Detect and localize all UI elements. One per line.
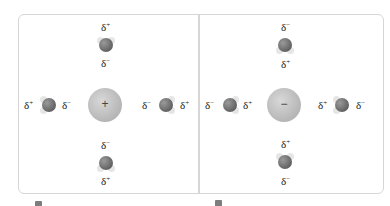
left-bottom-inner-label: δ− [101,139,110,151]
cation-sphere-icon: + [88,88,122,122]
right-left-outer-label: δ− [205,99,214,111]
right-top-inner-label: δ+ [281,58,290,70]
left-top-inner-label: δ− [101,57,110,69]
right-left-inner-label: δ+ [243,99,252,111]
water-molecule-icon [157,96,175,114]
right-bottom-outer-label: δ− [281,175,290,187]
water-molecule-icon [97,36,115,54]
left-left-outer-label: δ+ [24,99,33,111]
left-left-inner-label: δ− [62,99,71,111]
left-top-outer-label: δ+ [101,21,110,33]
water-molecule-icon [40,96,58,114]
panel-divider [198,14,200,194]
left-bottom-outer-label: δ+ [101,175,110,187]
anion-sphere-icon: − [267,88,301,122]
right-right-inner-label: δ+ [318,99,327,111]
water-molecule-icon [333,96,351,114]
panel-b-marker-icon [215,200,222,206]
figure-frame [18,14,384,194]
left-right-outer-label: δ+ [180,99,189,111]
right-right-outer-label: δ− [356,99,365,111]
panel-a-marker-icon [35,201,42,206]
left-right-inner-label: δ− [142,99,151,111]
water-molecule-icon [276,36,294,54]
water-molecule-icon [97,154,115,172]
right-top-outer-label: δ− [281,21,290,33]
water-molecule-icon [221,96,239,114]
water-molecule-icon [276,153,294,171]
right-bottom-inner-label: δ+ [281,138,290,150]
